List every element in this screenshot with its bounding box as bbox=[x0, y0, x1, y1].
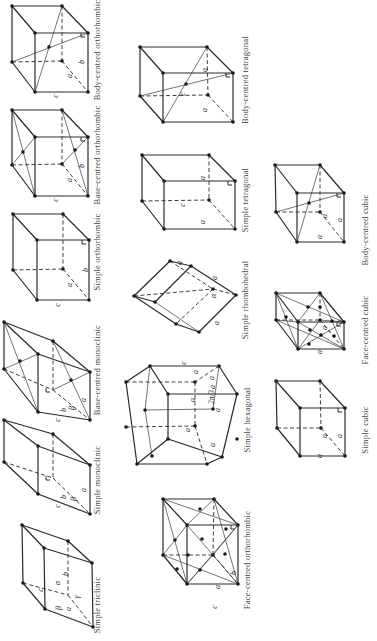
cell-edge bbox=[276, 381, 300, 408]
cell-edge bbox=[276, 381, 277, 428]
lattice-point bbox=[275, 426, 279, 430]
lattice-body-centred-cubic: aaaBody-centred cubic bbox=[273, 163, 370, 265]
lattice-point bbox=[168, 259, 172, 263]
axis-label: c bbox=[51, 198, 60, 202]
lattice-point bbox=[343, 406, 347, 410]
lattice-point bbox=[60, 162, 64, 166]
lattice-body-centred-orthorhombic: cabBody-centred orthorhombic bbox=[10, 0, 102, 100]
cell-edge bbox=[320, 381, 345, 408]
cell-edge bbox=[126, 382, 137, 464]
lattice-point bbox=[207, 198, 211, 202]
axis-label: a bbox=[315, 454, 324, 458]
cell-edge bbox=[137, 439, 168, 464]
lattice-point bbox=[47, 45, 51, 49]
lattice-caption: Body-centred orthorhombic bbox=[92, 0, 102, 100]
lattice-caption: Base-centred monoclinic bbox=[92, 325, 102, 415]
cell-edge bbox=[4, 420, 38, 446]
lattice-caption: Simple triclinic bbox=[92, 577, 102, 633]
axis-label: c bbox=[210, 605, 219, 609]
lattice-point bbox=[319, 333, 323, 337]
lattice-point bbox=[36, 410, 40, 414]
lattice-point bbox=[162, 179, 166, 183]
lattice-point bbox=[342, 240, 346, 244]
lattice-point bbox=[273, 163, 277, 167]
lattice-point bbox=[318, 305, 322, 309]
lattice-point bbox=[205, 45, 209, 49]
lattice-point bbox=[140, 199, 144, 203]
lattice-point bbox=[33, 31, 37, 35]
axis-label: a bbox=[315, 235, 324, 239]
axis-label: β bbox=[67, 406, 76, 411]
hidden-edge bbox=[213, 499, 214, 555]
lattice-point bbox=[161, 553, 165, 557]
lattice-point bbox=[124, 425, 128, 429]
lattice-face-centred-orthorhombic: cabFace-centred orthorhombic bbox=[161, 497, 252, 609]
lattice-point bbox=[224, 527, 228, 531]
hidden-edge bbox=[134, 289, 213, 296]
hidden-edge bbox=[208, 95, 233, 122]
lattice-simple-rhombohedral: aaaαSimple rhombohedral bbox=[132, 259, 250, 339]
lattice-point bbox=[207, 153, 211, 157]
hidden-edge bbox=[4, 462, 53, 478]
lattice-point bbox=[274, 291, 278, 295]
lattice-point bbox=[234, 293, 238, 297]
lattice-point bbox=[86, 194, 90, 198]
lattice-point bbox=[174, 322, 178, 326]
lattice-point bbox=[61, 212, 65, 216]
lattice-point bbox=[197, 330, 201, 334]
axis-label: a bbox=[208, 385, 217, 389]
lattice-point bbox=[61, 267, 65, 271]
axis-label: c bbox=[178, 92, 187, 96]
hidden-edge bbox=[12, 164, 62, 165]
lattice-point bbox=[306, 305, 310, 309]
cell-edge bbox=[277, 428, 300, 456]
axis-label: a bbox=[65, 74, 74, 78]
lattice-point bbox=[342, 191, 346, 195]
cell-edge bbox=[219, 366, 237, 394]
lattice-point bbox=[2, 367, 6, 371]
cell-edge bbox=[38, 446, 90, 465]
lattice-base-centred-monoclinic: cbβaBase-centred monoclinic bbox=[2, 320, 102, 422]
lattice-point bbox=[10, 4, 14, 8]
axis-label: a bbox=[335, 218, 344, 222]
lattice-point bbox=[2, 418, 6, 422]
cell-edge bbox=[12, 62, 35, 92]
axis-label: β bbox=[54, 606, 63, 611]
lattice-simple-orthorhombic: cabSimple orthorhombic bbox=[11, 212, 102, 307]
cell-edge bbox=[276, 212, 297, 242]
axis-label: a bbox=[207, 376, 216, 380]
lattice-point bbox=[295, 191, 299, 195]
lattice-caption: Base-centred orthorhombic bbox=[92, 106, 102, 205]
axis-label: a bbox=[65, 283, 74, 287]
cell-edge bbox=[168, 439, 222, 457]
lattice-point bbox=[166, 437, 170, 441]
cell-edge bbox=[23, 583, 45, 609]
lattice-point bbox=[86, 31, 90, 35]
cell-edge bbox=[4, 322, 53, 341]
lattice-point bbox=[10, 108, 14, 112]
axis-label: a bbox=[210, 276, 219, 280]
axis-label: c bbox=[178, 203, 187, 207]
axis-label: b bbox=[77, 164, 86, 168]
cell-edge bbox=[222, 394, 237, 457]
lattice-caption: Simple hexagonal bbox=[242, 387, 252, 452]
cell-edge bbox=[140, 47, 163, 73]
lattice-point bbox=[140, 153, 144, 157]
lattice-point bbox=[318, 291, 322, 295]
cell-edge bbox=[38, 412, 90, 420]
lattice-point bbox=[150, 454, 154, 458]
lattice-point bbox=[36, 444, 40, 448]
lattice-point bbox=[87, 238, 91, 242]
lattice-point bbox=[319, 426, 323, 430]
hidden-edge bbox=[12, 61, 62, 62]
axis-label: a bbox=[79, 398, 88, 402]
lattice-point bbox=[212, 497, 216, 501]
axis-label: a bbox=[65, 178, 74, 182]
cell-edge bbox=[140, 96, 163, 122]
lattice-point bbox=[166, 392, 170, 396]
lattice-point bbox=[193, 380, 197, 384]
lattice-point bbox=[138, 94, 142, 98]
lattice-point bbox=[33, 90, 37, 94]
axis-label: α bbox=[53, 580, 62, 585]
diagonal-line bbox=[145, 410, 152, 456]
